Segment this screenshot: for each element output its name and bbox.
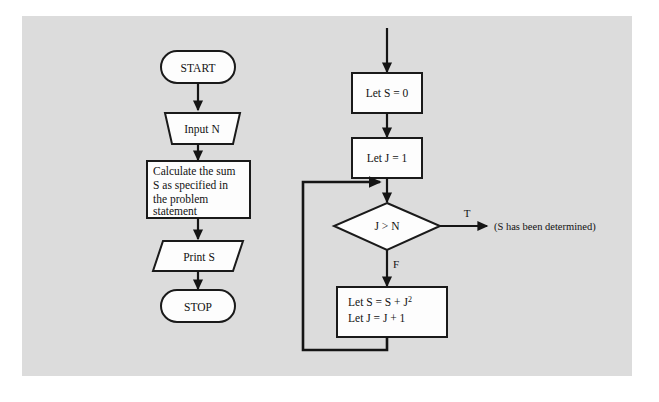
branch-true-label: T	[464, 207, 471, 219]
process-step-line-1: Calculate the sum	[153, 165, 235, 177]
branch-false-label: F	[393, 258, 399, 270]
process-step-line-4: statement	[153, 205, 198, 217]
loop-body-line-1-exponent: 2	[408, 295, 412, 304]
decision-label: J > N	[374, 220, 400, 232]
flowchart-svg: START Input N Calculate the sum S as spe…	[0, 0, 659, 402]
screenshot-canvas: START Input N Calculate the sum S as spe…	[0, 0, 659, 402]
loop-body-line-2: Let J = J + 1	[348, 312, 406, 324]
output-step-label: Print S	[183, 251, 215, 263]
input-step-label: Input N	[184, 123, 220, 136]
stop-terminal-label: STOP	[184, 301, 212, 313]
init-j-label: Let J = 1	[367, 152, 408, 164]
start-terminal-label: START	[181, 62, 216, 74]
loop-body-line-1: Let S = S + J2	[348, 295, 412, 308]
process-step-line-2: S as specified in	[153, 179, 228, 192]
loop-body-line-1-text: Let S = S + J	[348, 296, 408, 308]
init-s-label: Let S = 0	[366, 87, 409, 99]
true-annotation-text: (S has been determined)	[494, 221, 596, 233]
